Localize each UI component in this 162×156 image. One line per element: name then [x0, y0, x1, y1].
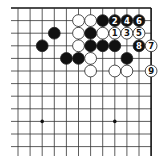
black-stone-move-6: 6	[133, 15, 145, 27]
go-board: 246135879	[0, 0, 162, 156]
white-stone	[85, 53, 97, 65]
move-number-label: 3	[124, 28, 130, 38]
white-stone	[85, 15, 97, 27]
move-number-label: 7	[148, 41, 154, 51]
white-stone-move-7: 7	[145, 40, 157, 52]
move-number-label: 8	[136, 41, 142, 51]
black-stone	[85, 40, 97, 52]
move-number-label: 9	[148, 66, 154, 76]
black-stone	[61, 53, 73, 65]
white-stone	[109, 65, 121, 77]
black-stone-move-8: 8	[133, 40, 145, 52]
black-stone-move-2: 2	[109, 15, 121, 27]
black-stone	[97, 15, 109, 27]
black-stone	[85, 27, 97, 39]
white-stone	[85, 65, 97, 77]
black-stone	[109, 40, 121, 52]
move-number-label: 5	[136, 28, 142, 38]
white-stone	[73, 15, 85, 27]
black-stone	[36, 40, 48, 52]
white-stone-move-5: 5	[133, 27, 145, 39]
white-stone-move-1: 1	[109, 27, 121, 39]
move-number-label: 4	[124, 16, 130, 26]
white-stone-move-9: 9	[145, 65, 157, 77]
star-point	[113, 120, 117, 124]
move-number-label: 2	[112, 16, 118, 26]
black-stone	[121, 53, 133, 65]
white-stone	[73, 40, 85, 52]
black-stone	[73, 53, 85, 65]
move-number-label: 6	[136, 16, 142, 26]
black-stone	[48, 27, 60, 39]
white-stone	[121, 65, 133, 77]
white-stone	[97, 27, 109, 39]
move-number-label: 1	[112, 28, 118, 38]
white-stone	[73, 27, 85, 39]
black-stone-move-4: 4	[121, 15, 133, 27]
white-stone-move-3: 3	[121, 27, 133, 39]
black-stone	[97, 40, 109, 52]
star-point	[40, 120, 44, 124]
